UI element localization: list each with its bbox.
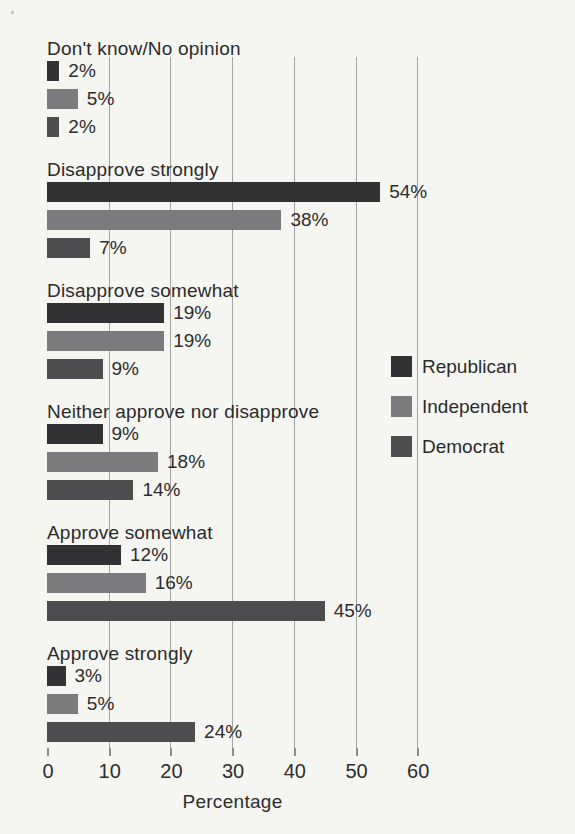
bar-row-republican: 19% <box>47 303 547 323</box>
bar-row-republican: 2% <box>47 61 547 81</box>
x-tick-40 <box>294 748 296 756</box>
scanned-chart-page: Don't know/No opinion2%5%2%Disapprove st… <box>0 0 575 834</box>
x-tick-10 <box>109 748 111 756</box>
group-label: Approve somewhat <box>47 521 547 545</box>
value-label: 7% <box>99 237 126 259</box>
value-label: 2% <box>68 60 95 82</box>
bar-republican <box>47 545 121 565</box>
bar-row-independent: 38% <box>47 210 547 230</box>
value-label: 19% <box>173 302 211 324</box>
legend-entry-independent: Independent <box>391 396 528 417</box>
group-label: Don't know/No opinion <box>47 37 547 61</box>
bar-row-republican: 54% <box>47 182 547 202</box>
bar-democrat <box>47 601 325 621</box>
value-label: 45% <box>334 600 372 622</box>
bar-independent <box>47 452 158 472</box>
group-label: Approve strongly <box>47 642 547 666</box>
x-tick-label-30: 30 <box>222 760 244 783</box>
bar-row-independent: 16% <box>47 573 547 593</box>
bar-republican <box>47 303 164 323</box>
bar-independent <box>47 573 146 593</box>
legend-entry-democrat: Democrat <box>391 436 528 457</box>
bar-row-democrat: 14% <box>47 480 547 500</box>
bar-row-democrat: 24% <box>47 722 547 742</box>
legend-swatch-republican <box>391 356 412 377</box>
bar-row-republican: 3% <box>47 666 547 686</box>
value-label: 5% <box>87 88 114 110</box>
bar-row-independent: 5% <box>47 89 547 109</box>
legend-label: Independent <box>422 396 528 418</box>
bar-row-democrat: 2% <box>47 117 547 137</box>
legend-swatch-democrat <box>391 436 412 457</box>
x-tick-60 <box>417 748 419 756</box>
bar-democrat <box>47 117 59 137</box>
bar-democrat <box>47 238 90 258</box>
x-axis-title: Percentage <box>47 791 418 813</box>
x-tick-label-0: 0 <box>42 760 53 783</box>
value-label: 9% <box>112 358 139 380</box>
bar-republican <box>47 61 59 81</box>
bar-independent <box>47 210 281 230</box>
value-label: 24% <box>204 721 242 743</box>
value-label: 16% <box>155 572 193 594</box>
legend-label: Republican <box>422 356 517 378</box>
group-label: Disapprove somewhat <box>47 279 547 303</box>
legend-swatch-independent <box>391 396 412 417</box>
legend-entry-republican: Republican <box>391 356 528 377</box>
value-label: 5% <box>87 693 114 715</box>
bar-republican <box>47 666 66 686</box>
bar-independent <box>47 89 78 109</box>
value-label: 9% <box>112 423 139 445</box>
value-label: 3% <box>75 665 102 687</box>
legend: RepublicanIndependentDemocrat <box>391 356 528 476</box>
value-label: 54% <box>389 181 427 203</box>
x-tick-label-20: 20 <box>160 760 182 783</box>
bar-group: Disapprove strongly54%38%7% <box>47 158 547 258</box>
group-label: Disapprove strongly <box>47 158 547 182</box>
x-tick-30 <box>232 748 234 756</box>
value-label: 18% <box>167 451 205 473</box>
value-label: 2% <box>68 116 95 138</box>
scan-artifact-dot <box>11 11 14 14</box>
bar-row-democrat: 7% <box>47 238 547 258</box>
x-tick-label-60: 60 <box>407 760 429 783</box>
x-tick-0 <box>47 748 49 756</box>
value-label: 14% <box>142 479 180 501</box>
bar-republican <box>47 424 103 444</box>
bar-row-republican: 12% <box>47 545 547 565</box>
bar-row-independent: 19% <box>47 331 547 351</box>
bar-republican <box>47 182 380 202</box>
bar-democrat <box>47 722 195 742</box>
value-label: 12% <box>130 544 168 566</box>
x-tick-label-50: 50 <box>345 760 367 783</box>
x-tick-label-40: 40 <box>284 760 306 783</box>
x-tick-20 <box>170 748 172 756</box>
bar-group: Approve somewhat12%16%45% <box>47 521 547 621</box>
bar-independent <box>47 694 78 714</box>
x-tick-label-10: 10 <box>99 760 121 783</box>
bar-row-independent: 5% <box>47 694 547 714</box>
bar-row-democrat: 45% <box>47 601 547 621</box>
bar-independent <box>47 331 164 351</box>
bar-democrat <box>47 359 103 379</box>
value-label: 38% <box>290 209 328 231</box>
legend-label: Democrat <box>422 436 504 458</box>
bar-group: Don't know/No opinion2%5%2% <box>47 37 547 137</box>
bar-group: Approve strongly3%5%24% <box>47 642 547 742</box>
bar-democrat <box>47 480 133 500</box>
x-tick-50 <box>356 748 358 756</box>
value-label: 19% <box>173 330 211 352</box>
